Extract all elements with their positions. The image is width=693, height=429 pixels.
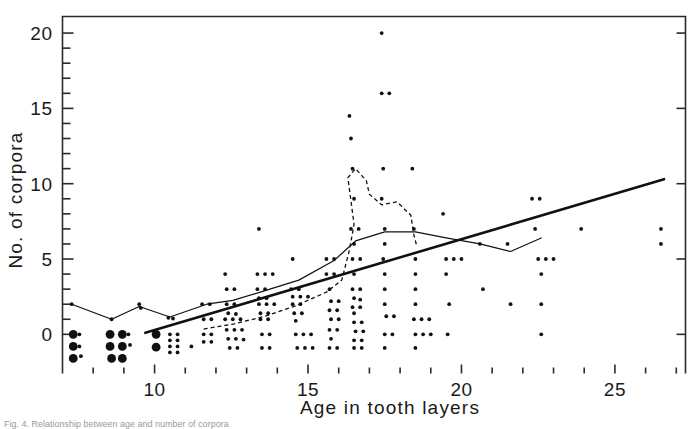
data-point [659,242,663,246]
data-point [414,272,418,276]
data-point [260,346,264,350]
data-point [460,257,464,261]
data-point [328,346,332,350]
data-point [383,346,387,350]
data-point [421,332,425,336]
data-point [291,295,295,299]
data-point [176,344,180,348]
data-point [481,287,485,291]
data-point [168,332,172,336]
data-point [200,302,204,306]
data-point [352,272,356,276]
data-point [266,317,270,321]
data-point [552,257,556,261]
data-point [335,346,339,350]
data-point [387,91,391,95]
data-points [70,31,663,359]
data-point [447,302,451,306]
data-point [539,332,543,336]
data-point [383,272,387,276]
data-point [263,287,267,291]
data-point [429,332,433,336]
data-point [414,287,418,291]
data-point-bold [118,330,127,339]
data-point [412,317,416,321]
data-point [352,296,356,300]
data-point [128,343,132,347]
data-point [441,212,445,216]
data-point [332,272,336,276]
data-points-bold [69,330,161,363]
data-point [255,287,259,291]
data-point [127,332,131,336]
y-axis-tick-labels: 05101520 [30,23,52,345]
data-point [295,346,299,350]
data-point [539,272,543,276]
data-point [337,317,341,321]
data-point [303,346,307,350]
figure-caption: Fig. 4. Relationship between age and num… [4,419,229,429]
data-point [176,338,180,342]
data-point [311,346,315,350]
data-point [268,346,272,350]
data-point [232,287,236,291]
data-point [354,329,358,333]
data-point [70,302,74,306]
data-point [168,338,172,342]
data-point [414,346,418,350]
data-point [478,242,482,246]
data-point [291,257,295,261]
data-point [446,332,450,336]
data-point [391,332,395,336]
data-point [427,317,431,321]
data-point [329,337,333,341]
data-point [226,311,230,315]
data-point [208,302,212,306]
data-point-bold [118,342,127,351]
data-point-bold [152,343,161,352]
data-point [240,328,244,332]
scatter-plot-svg: 10152025 05101520 Age in tooth layers No… [0,0,693,429]
data-point [539,302,543,306]
y-tick-label: 15 [30,98,52,119]
regression-line [145,179,664,333]
data-point [352,320,356,324]
data-point [380,197,384,201]
data-point [392,314,396,318]
data-point [189,344,193,348]
data-point [384,314,388,318]
data-point [329,317,333,321]
data-point [544,257,548,261]
data-point [352,338,356,342]
data-point [171,317,175,321]
y-axis-title: No. of corpora [5,131,26,268]
data-point [383,287,387,291]
data-point [412,227,416,231]
data-point [168,351,172,355]
data-point [168,344,172,348]
data-point [259,311,263,315]
data-point [414,332,418,336]
data-point-bold [69,342,78,351]
data-point [325,272,329,276]
data-point [232,302,236,306]
data-point [300,311,304,315]
data-point [110,317,114,321]
data-point [234,337,238,341]
data-point [381,167,385,171]
data-point [202,332,206,336]
data-point [291,302,295,306]
data-point [225,328,229,332]
data-point [335,328,339,332]
x-tick-label: 10 [143,379,165,400]
data-point [228,346,232,350]
data-point [139,306,143,310]
data-point [360,320,364,324]
data-point [260,332,264,336]
data-point [358,257,362,261]
data-point [351,257,355,261]
data-point [325,257,329,261]
data-point [358,298,362,302]
data-point [358,287,362,291]
data-point [176,351,180,355]
